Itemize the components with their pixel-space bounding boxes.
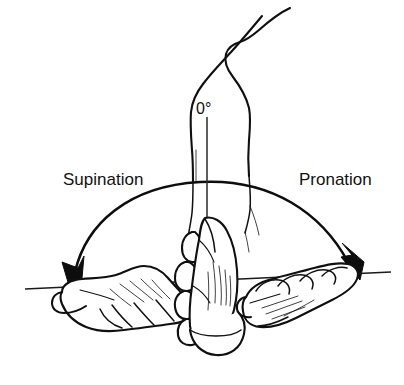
pronated-hand-palm-down (237, 263, 358, 327)
pronation-label: Pronation (299, 170, 372, 189)
forearm-rotation-figure: 0° Supination Pronation (0, 0, 404, 385)
neutral-hand (175, 218, 245, 356)
supination-label: Supination (63, 170, 143, 189)
upper-limb-outline (188, 8, 290, 252)
neutral-angle-label: 0° (196, 100, 211, 117)
figure-canvas: 0° Supination Pronation (0, 0, 404, 385)
